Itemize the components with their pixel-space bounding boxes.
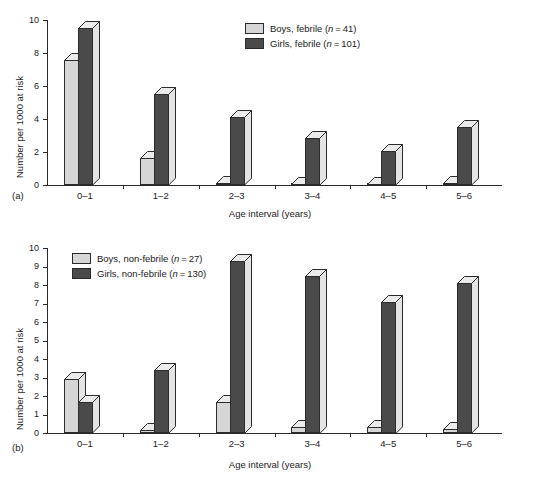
bar-5-6-s1: [457, 127, 472, 185]
bar-front-face: [230, 117, 245, 185]
bar-3-4-s0: [291, 184, 306, 185]
x-tick-label: 5–6: [439, 191, 489, 201]
bar-side-face-shape: [244, 254, 252, 434]
bar-4-5-s0: [367, 427, 382, 433]
bar-1-2-s1: [154, 370, 169, 433]
x-tick-label: 4–5: [363, 191, 413, 201]
x-tick-label: 5–6: [439, 439, 489, 449]
y-tick: [43, 267, 47, 268]
y-tick: [43, 20, 47, 21]
bar-top-face-shape: [457, 276, 479, 284]
bar-0-1-s1: [78, 28, 93, 185]
bar-2-3-s1: [230, 117, 245, 185]
bar-4-5-s1: [381, 302, 396, 433]
x-tick: [426, 185, 427, 189]
bar-side-face-shape: [395, 295, 403, 434]
bar-front-face: [64, 60, 79, 185]
legend-label: Boys, febrile (n = 41): [270, 23, 356, 34]
y-tick: [43, 322, 47, 323]
y-tick: [43, 53, 47, 54]
bar-1-2-s1: [154, 94, 169, 185]
y-tick: [43, 185, 47, 186]
bar-5-6-s0: [443, 183, 458, 185]
bar-top-face-shape: [305, 269, 327, 277]
y-tick: [43, 433, 47, 434]
bar-top-face-shape: [230, 254, 252, 262]
bar-front-face: [381, 302, 396, 433]
x-tick-label: 3–4: [287, 439, 337, 449]
bar-4-5-s1: [381, 151, 396, 185]
legend-swatch: [245, 38, 264, 49]
bar-front-face: [154, 94, 169, 185]
bar-3-4-s0: [291, 427, 306, 433]
x-tick: [350, 185, 351, 189]
y-tick-label: 7: [23, 299, 39, 308]
x-tick: [350, 433, 351, 437]
x-tick: [275, 433, 276, 437]
bar-top-face-shape: [305, 131, 327, 139]
y-tick: [43, 248, 47, 249]
bar-3-4-s1: [305, 276, 320, 433]
y-tick: [43, 415, 47, 416]
y-tick-label: 4: [23, 115, 39, 124]
bar-side-face-shape: [471, 276, 479, 434]
x-tick-label: 0–1: [60, 439, 110, 449]
bar-front-face: [140, 158, 155, 185]
bar-front-face: [78, 28, 93, 185]
bar-top-face-shape: [154, 363, 176, 371]
x-axis-title-a: Age interval (years): [180, 208, 360, 219]
legend-a: Boys, febrile (n = 41)Girls, febrile (n …: [245, 22, 445, 52]
bar-front-face: [230, 261, 245, 433]
y-tick-label: 0: [23, 181, 39, 190]
legend-swatch: [72, 268, 91, 279]
x-tick: [123, 433, 124, 437]
y-tick-label: 0: [23, 429, 39, 438]
y-tick: [43, 378, 47, 379]
y-tick: [43, 396, 47, 397]
x-tick-label: 1–2: [136, 439, 186, 449]
bar-side-face-shape: [319, 269, 327, 434]
y-tick-label: 10: [23, 16, 39, 25]
bar-5-6-s0: [443, 429, 458, 433]
y-tick-label: 8: [23, 281, 39, 290]
y-tick: [43, 86, 47, 87]
bar-1-2-s0: [140, 430, 155, 433]
bar-front-face: [381, 151, 396, 185]
bar-top-face-shape: [64, 372, 86, 380]
x-tick-label: 2–3: [212, 439, 262, 449]
bar-top-face-shape: [78, 21, 100, 29]
x-tick-label: 4–5: [363, 439, 413, 449]
bar-front-face: [457, 127, 472, 185]
bar-1-2-s0: [140, 158, 155, 185]
legend-label: Girls, non-febrile (n = 130): [97, 268, 206, 279]
bar-top-face-shape: [230, 110, 252, 118]
bar-front-face: [64, 379, 79, 433]
bar-top-face-shape: [457, 120, 479, 128]
bar-front-face: [305, 276, 320, 433]
y-tick: [43, 359, 47, 360]
bar-front-face: [216, 402, 231, 433]
legend-label: Girls, febrile (n = 101): [270, 38, 360, 49]
chart-panel-b: Number per 1000 at risk 0123456789100–11…: [0, 232, 548, 482]
bar-side-face-shape: [319, 131, 327, 186]
bar-0-1-s0: [64, 60, 79, 185]
y-tick-label: 6: [23, 318, 39, 327]
y-tick-label: 6: [23, 82, 39, 91]
x-tick-label: 1–2: [136, 191, 186, 201]
legend-swatch: [245, 23, 264, 34]
x-tick: [199, 433, 200, 437]
bar-2-3-s0: [216, 183, 231, 185]
y-tick: [43, 119, 47, 120]
y-axis-line: [47, 20, 48, 186]
y-tick-label: 10: [23, 244, 39, 253]
bar-side-face-shape: [168, 363, 176, 434]
x-tick-label: 0–1: [60, 191, 110, 201]
bar-top-face-shape: [381, 144, 403, 152]
y-tick: [43, 152, 47, 153]
panel-label-a: (a): [12, 190, 24, 201]
y-tick-label: 9: [23, 262, 39, 271]
bar-0-1-s1: [78, 402, 93, 433]
y-tick: [43, 285, 47, 286]
x-tick-label: 3–4: [287, 191, 337, 201]
y-tick-label: 3: [23, 373, 39, 382]
